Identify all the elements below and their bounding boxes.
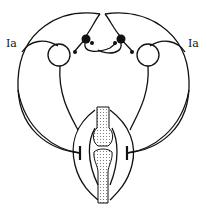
right-ia-label: Ia xyxy=(188,37,199,50)
right-muscle xyxy=(110,110,134,200)
right-terminal-dot xyxy=(130,50,134,54)
right-motor-axon xyxy=(130,66,148,130)
left-terminal-dot xyxy=(73,50,77,54)
reciprocal-inhibition-diagram: Ia Ia xyxy=(0,0,207,214)
right-inhibitory-interneuron xyxy=(117,35,126,44)
left-synapse-dot xyxy=(90,41,94,45)
left-motor-axon xyxy=(60,66,78,130)
left-inhibitory-interneuron xyxy=(82,35,91,44)
left-motor-neuron xyxy=(48,44,70,66)
right-motor-neuron xyxy=(137,44,159,66)
left-ia-label: Ia xyxy=(6,37,17,50)
right-synapse-dot xyxy=(113,41,117,45)
upper-bone xyxy=(93,107,112,146)
right-top-fiber xyxy=(105,14,120,36)
left-top-fiber xyxy=(86,14,100,36)
lower-bone xyxy=(94,149,112,203)
